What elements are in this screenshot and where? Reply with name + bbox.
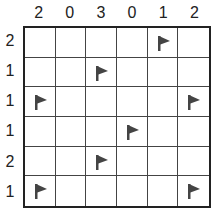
- grid-cell[interactable]: [56, 117, 87, 147]
- grid-cell[interactable]: [86, 58, 117, 88]
- grid-cell[interactable]: [25, 28, 56, 58]
- grid-cell[interactable]: [148, 28, 179, 58]
- grid-cell[interactable]: [117, 87, 148, 117]
- flag-icon: [187, 94, 201, 110]
- grid-cell[interactable]: [117, 58, 148, 88]
- grid-cell[interactable]: [25, 87, 56, 117]
- grid-cell[interactable]: [178, 28, 209, 58]
- flag-icon: [126, 124, 140, 140]
- row-clue: 2: [0, 26, 23, 56]
- grid-cell[interactable]: [56, 176, 87, 206]
- flag-icon: [95, 65, 109, 81]
- grid-cell[interactable]: [56, 28, 87, 58]
- row-clue: 1: [0, 116, 23, 146]
- grid-cell[interactable]: [25, 117, 56, 147]
- grid-cell[interactable]: [178, 58, 209, 88]
- flag-icon: [95, 154, 109, 170]
- grid-cell[interactable]: [178, 117, 209, 147]
- row-clues: 2 1 1 1 2 1: [0, 26, 23, 207]
- column-clue: 0: [116, 2, 147, 24]
- grid-cell[interactable]: [86, 87, 117, 117]
- grid-cell[interactable]: [117, 28, 148, 58]
- flag-icon: [34, 94, 48, 110]
- grid-cell[interactable]: [178, 87, 209, 117]
- grid-cell[interactable]: [25, 147, 56, 177]
- grid-cell[interactable]: [86, 117, 117, 147]
- grid-cell[interactable]: [117, 117, 148, 147]
- grid-cell[interactable]: [86, 28, 117, 58]
- grid-cell[interactable]: [148, 147, 179, 177]
- grid-cell[interactable]: [56, 58, 87, 88]
- row-clue: 1: [0, 56, 23, 86]
- grid-cell[interactable]: [56, 87, 87, 117]
- grid-cell[interactable]: [178, 176, 209, 206]
- grid-cell[interactable]: [148, 176, 179, 206]
- column-clues: 2 0 3 0 1 2: [23, 2, 210, 24]
- grid-cell[interactable]: [25, 176, 56, 206]
- grid-cell[interactable]: [117, 147, 148, 177]
- row-clue: 2: [0, 147, 23, 177]
- column-clue: 2: [23, 2, 54, 24]
- grid-cell[interactable]: [86, 147, 117, 177]
- grid-cell[interactable]: [25, 58, 56, 88]
- grid-cell[interactable]: [178, 147, 209, 177]
- grid-cell[interactable]: [86, 176, 117, 206]
- column-clue: 3: [85, 2, 116, 24]
- grid-cell[interactable]: [56, 147, 87, 177]
- flag-icon: [34, 183, 48, 199]
- row-clue: 1: [0, 177, 23, 207]
- flag-icon: [187, 183, 201, 199]
- puzzle-grid: [23, 26, 211, 208]
- column-clue: 0: [54, 2, 85, 24]
- column-clue: 2: [179, 2, 210, 24]
- flag-icon: [157, 35, 171, 51]
- grid-cell[interactable]: [148, 58, 179, 88]
- column-clue: 1: [148, 2, 179, 24]
- grid-cell[interactable]: [148, 87, 179, 117]
- grid-cell[interactable]: [148, 117, 179, 147]
- row-clue: 1: [0, 86, 23, 116]
- grid-cell[interactable]: [117, 176, 148, 206]
